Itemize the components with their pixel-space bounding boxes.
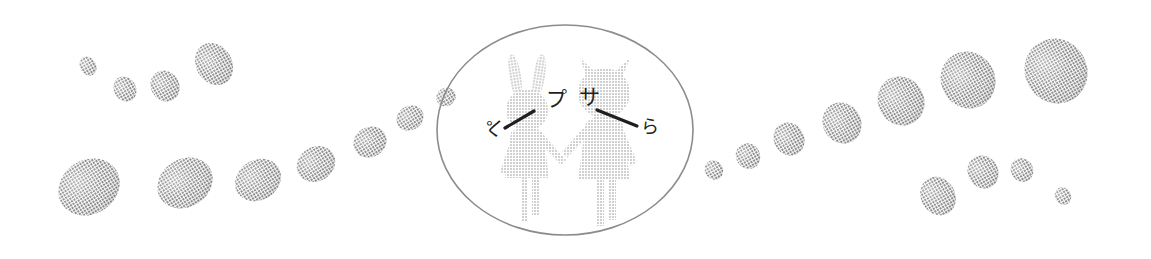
mark-inner-right: サ [579, 85, 600, 109]
blob-chain-lower-left-chain [48, 84, 460, 227]
blob-shading [1052, 184, 1075, 208]
mark-right: ら [641, 116, 659, 137]
blob-chain-right-ascending-chain [701, 27, 1099, 183]
blob-shading [145, 65, 185, 107]
blob-shading [768, 117, 811, 161]
blob-shading [148, 147, 223, 218]
blob-shading [109, 72, 141, 106]
illustration-scene: ペプサら [0, 0, 1151, 259]
illustration-canvas: ペプサら Two cartoon children holding hands … [0, 0, 1151, 259]
blob-shading [962, 150, 1005, 194]
blob-shading [869, 68, 934, 134]
blob-shading [731, 139, 765, 174]
blob-shading [701, 157, 727, 183]
character-horned-child [562, 58, 637, 226]
blob-shading [815, 95, 869, 150]
blob-shading [930, 41, 1006, 118]
rabbit-leg-left [521, 176, 528, 222]
blob-shading [1006, 154, 1037, 186]
blob-shading [76, 53, 100, 78]
blob-chain-upper-left-chain [76, 36, 241, 107]
blob-shading [48, 147, 131, 227]
blob-layer [48, 27, 1100, 227]
rabbit-leg-right [532, 176, 539, 216]
blob-shading [433, 84, 459, 110]
blob-chain-lower-right-chain [913, 150, 1074, 222]
mark-left: ペ [483, 119, 505, 138]
characters-group [500, 53, 637, 226]
horned-leg-right [608, 178, 616, 220]
blob-shading [348, 120, 393, 163]
blob-shading [392, 100, 428, 135]
blob-shading [187, 36, 240, 92]
blob-shading [913, 170, 962, 222]
blob-shading [227, 150, 289, 209]
blob-shading [1013, 27, 1100, 115]
character-rabbit-child [500, 53, 566, 222]
blob-shading [290, 139, 342, 189]
horned-leg-left [596, 178, 604, 226]
mark-inner-left: プ [546, 87, 567, 111]
